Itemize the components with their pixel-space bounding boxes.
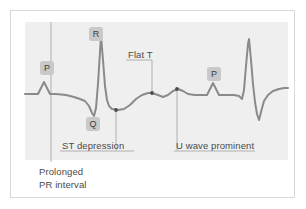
caption-prolonged-line1: Prolonged <box>39 166 83 177</box>
wave-tag-label: P <box>211 70 217 79</box>
annotation-u-wave: U wave prominent <box>176 140 254 151</box>
ecg-figure: P R Q P Flat T ST depression U wave prom… <box>0 0 306 209</box>
caption-pr-interval-line2: PR interval <box>39 179 87 190</box>
wave-tag-label: Q <box>89 120 96 129</box>
annotation-st-depression: ST depression <box>62 140 124 151</box>
wave-tag-q: Q <box>86 117 100 131</box>
st-depression-point-marker <box>114 108 118 112</box>
wave-tag-r: R <box>89 27 103 41</box>
wave-tag-p-second: P <box>207 67 221 81</box>
wave-tag-label: P <box>44 64 50 73</box>
flat-t-point-marker <box>150 91 154 95</box>
wave-tag-p-first: P <box>40 61 54 75</box>
annotation-flat-t: Flat T <box>128 49 153 60</box>
wave-tag-label: R <box>93 30 100 39</box>
u-wave-point-marker <box>175 87 179 91</box>
ecg-chart-canvas <box>0 0 306 209</box>
